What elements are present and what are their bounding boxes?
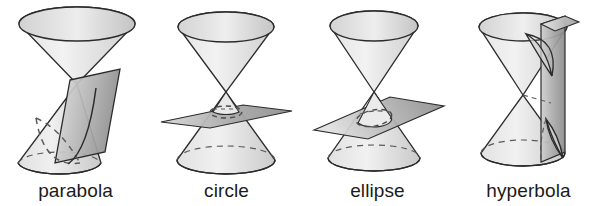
figure-hyperbola: hyperbola [453,0,604,206]
cutting-plane-oblique [55,69,120,163]
upper-cone-rim [178,12,274,42]
upper-cone-rim [19,7,135,41]
ellipse-label: ellipse [302,180,453,202]
figure-parabola: parabola [0,0,151,206]
upper-cone [178,12,274,92]
ellipse-svg [302,0,453,176]
figure-circle: circle [151,0,302,206]
parabola-label: parabola [0,180,151,202]
circle-diagram [151,0,302,176]
circle-label: circle [151,180,302,202]
hyperbola-diagram [453,0,604,176]
cutting-plane-vertical [541,16,579,162]
conic-sections-figure-row: parabola [0,0,604,206]
hyperbola-svg [453,0,604,176]
upper-cone [330,11,418,92]
cone-tip-below-plane [213,92,239,115]
upper-cone-rim [330,11,418,41]
parabola-diagram [0,0,151,176]
hyperbola-label: hyperbola [453,180,604,202]
parabola-svg [0,0,151,176]
figure-ellipse: ellipse [302,0,453,206]
ellipse-diagram [302,0,453,176]
circle-svg [151,0,302,176]
